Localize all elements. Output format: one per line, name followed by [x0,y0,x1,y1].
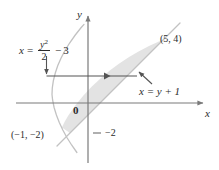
parabola-equation-label: x = y2 2 − 3 [19,39,69,62]
parabola-eq-constant: 3 [63,45,69,56]
figure-canvas: x = y2 2 − 3 x = y + 1 (5, 4) (−1, −2) −… [0,0,219,170]
line-pointer-arrow [139,72,152,84]
numerator-exponent: 2 [45,38,49,46]
point-label-5-4: (5, 4) [160,34,182,44]
fraction-y2-over-2: y2 2 [38,39,50,62]
x-axis-label: x [205,108,210,119]
point-label-minus1-minus2: (−1, −2) [11,130,44,140]
graph-svg [0,0,219,170]
y-axis-label: y [77,9,82,20]
parabola-eq-minus: − [55,45,61,56]
line-equation-label: x = y + 1 [139,86,180,97]
parabola-eq-equals: = [27,45,33,56]
fraction-denominator: 2 [40,51,49,62]
parabola-eq-lhs: x [19,45,24,56]
y-tick-label-minus2: −2 [105,128,116,138]
fraction-numerator: y2 [38,39,50,50]
origin-label: 0 [73,105,79,116]
